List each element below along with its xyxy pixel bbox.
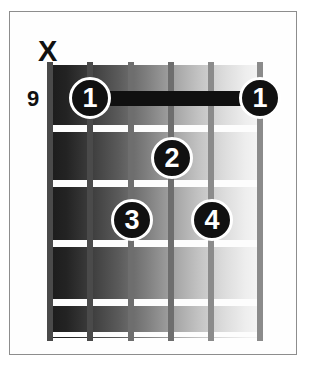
string-1 <box>47 62 53 341</box>
finger-dot-3: 3 <box>111 199 153 241</box>
fret-line-1 <box>47 125 263 132</box>
finger-dot-4: 4 <box>191 199 233 241</box>
mute-marker-string-1: X <box>38 37 57 66</box>
chord-diagram: X 9 1 1 2 3 4 <box>0 0 310 370</box>
fret-line-4 <box>47 299 263 306</box>
fret-line-5 <box>47 332 263 337</box>
fret-line-2 <box>47 180 263 187</box>
finger-dot-1b: 1 <box>239 77 281 119</box>
finger-dot-1a: 1 <box>69 77 111 119</box>
starting-fret-label: 9 <box>27 88 39 110</box>
fret-line-3 <box>47 240 263 247</box>
barre-fret-1 <box>90 91 262 106</box>
finger-dot-2: 2 <box>151 137 193 179</box>
